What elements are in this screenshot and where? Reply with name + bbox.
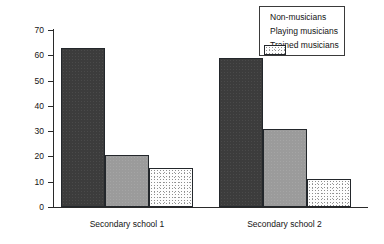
y-axis-tick-label: 0: [4, 203, 44, 212]
y-axis-tick-label: 70: [4, 26, 44, 35]
y-axis-tick-label: 40: [4, 102, 44, 111]
bar: [61, 48, 105, 207]
x-axis-category-label: Secondary school 1: [67, 219, 187, 229]
y-axis-tick-label: 50: [4, 77, 44, 86]
legend: Non-musicians Playing musicians Trained …: [259, 6, 345, 56]
bar: [307, 179, 351, 207]
y-axis-tick-label: 30: [4, 127, 44, 136]
x-axis-line: [53, 207, 368, 208]
y-axis-tick-label: 20: [4, 152, 44, 161]
legend-swatch-trained-musicians: [264, 45, 286, 55]
legend-item[interactable]: Trained musicians: [264, 38, 339, 52]
x-axis-category-label: Secondary school 2: [225, 219, 345, 229]
legend-label-non-musicians: Non-musicians: [270, 13, 326, 22]
y-axis-tick-label: 60: [4, 51, 44, 60]
bar: [219, 58, 263, 207]
plot-area: [53, 30, 368, 207]
legend-label-playing-musicians: Playing musicians: [270, 27, 338, 36]
bar: [263, 129, 307, 207]
legend-item[interactable]: Playing musicians: [264, 24, 339, 38]
bar-chart-figure: Percentage of total 706050403020100 Seco…: [0, 0, 384, 244]
legend-item[interactable]: Non-musicians: [264, 10, 339, 24]
bar: [149, 168, 193, 207]
bar: [105, 155, 149, 207]
y-axis-tick-label: 10: [4, 178, 44, 187]
